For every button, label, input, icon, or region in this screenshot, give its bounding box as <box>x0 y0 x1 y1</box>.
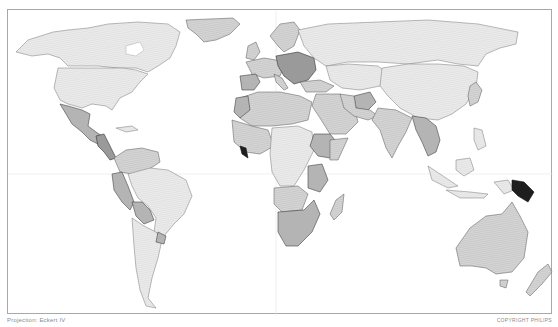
region-west-papua[interactable] <box>494 180 514 194</box>
region-uk[interactable] <box>246 42 260 60</box>
projection-label: Projection: Eckert IV <box>7 317 66 323</box>
region-india[interactable] <box>372 108 412 158</box>
region-central-america[interactable] <box>96 134 116 160</box>
copyright-label: COPYRIGHT PHILIPS <box>497 317 552 323</box>
region-indonesia-south[interactable] <box>446 190 488 198</box>
region-indonesia[interactable] <box>428 166 458 188</box>
region-canada[interactable] <box>16 22 180 72</box>
world-map <box>8 10 553 315</box>
region-afghanistan[interactable] <box>354 92 376 110</box>
region-australia[interactable] <box>456 202 528 274</box>
map-frame <box>7 9 552 314</box>
region-tanzania[interactable] <box>308 164 328 192</box>
region-angola-zambia[interactable] <box>274 186 308 212</box>
region-horn-of-africa[interactable] <box>330 138 348 160</box>
region-mexico[interactable] <box>60 104 102 144</box>
region-scandinavia[interactable] <box>270 22 300 52</box>
region-russia[interactable] <box>298 20 518 66</box>
region-southeast-asia-mainland[interactable] <box>412 116 440 156</box>
region-north-africa[interactable] <box>240 92 312 126</box>
region-madagascar[interactable] <box>330 194 344 220</box>
region-iberia[interactable] <box>240 74 260 90</box>
region-united-states[interactable] <box>54 68 148 110</box>
region-papua-new-guinea[interactable] <box>512 180 534 202</box>
region-greenland[interactable] <box>186 18 240 42</box>
region-philippines[interactable] <box>474 128 486 150</box>
region-new-zealand[interactable] <box>526 264 552 296</box>
region-tasmania[interactable] <box>500 280 508 288</box>
region-central-africa[interactable] <box>270 126 314 186</box>
region-turkey[interactable] <box>300 80 334 92</box>
region-caribbean[interactable] <box>116 126 138 132</box>
region-central-asia[interactable] <box>326 64 388 90</box>
region-borneo[interactable] <box>456 158 474 176</box>
